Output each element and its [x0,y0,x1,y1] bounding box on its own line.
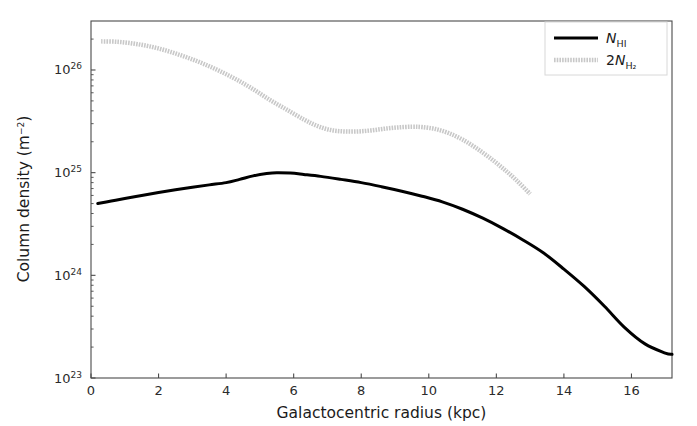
x-tick-label: 4 [222,383,230,398]
y-axis-title: Column density (m−2) [15,116,33,283]
y-axis-title-exponent: −2 [16,122,26,135]
legend-prefix-2: 2 [606,52,615,68]
x-tick-label: 8 [357,383,365,398]
x-tick-label: 6 [290,383,298,398]
legend-symbol-n-hi: N [606,30,617,46]
legend[interactable]: NHI 2NH₂ [545,22,667,75]
legend-subscript-h2: H₂ [625,60,636,71]
x-tick-label: 10 [421,383,438,398]
column-density-chart: 0246810121416 1023102410251026 Galactoce… [0,0,697,426]
x-tick-label: 2 [154,383,162,398]
x-tick-label: 12 [488,383,505,398]
y-axis-title-close: ) [15,116,33,122]
legend-subscript-hi: HI [616,38,626,49]
x-axis-title: Galactocentric radius (kpc) [277,404,487,422]
svg-text:Column density (m−2): Column density (m−2) [15,116,33,283]
x-tick-label: 16 [623,383,640,398]
x-tick-label: 0 [87,383,95,398]
x-tick-label: 14 [556,383,573,398]
y-axis-title-base: Column density (m [15,135,33,282]
legend-symbol-n-h2: N [615,52,626,68]
